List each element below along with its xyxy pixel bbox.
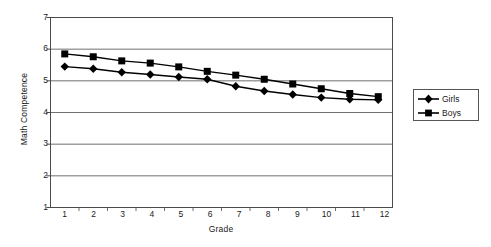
gridlines: [51, 49, 393, 176]
x-tick-marks: [79, 208, 364, 212]
y-tick-marks: [47, 18, 51, 208]
chart-legend: Girls Boys: [413, 89, 479, 121]
legend-label-girls: Girls: [442, 94, 459, 104]
legend-marker-square-icon: [417, 106, 440, 120]
series-layer: [61, 50, 383, 104]
chart-figure: Math Competence Grade 7 6 5 4 3 2 1 1 2 …: [0, 0, 491, 247]
legend-marker-diamond-icon: [417, 92, 440, 106]
plot-area: [0, 0, 491, 247]
legend-label-boys: Boys: [442, 108, 461, 118]
